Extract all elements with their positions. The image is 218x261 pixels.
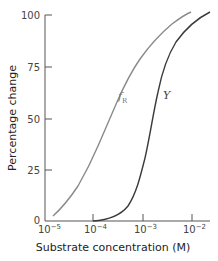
y-tick-label: 25 (27, 165, 40, 176)
y-tick-labels: 100 75 50 25 0 (21, 10, 40, 226)
x-tick-label: 10−2 (183, 223, 206, 235)
chart: 100 75 50 25 0 10−5 10−4 10−3 10−2 Subst… (0, 0, 218, 261)
x-ticks (93, 214, 192, 221)
x-tick-label: 10−5 (38, 223, 61, 235)
y-tick-label: 75 (27, 62, 40, 73)
series-Y-label: Y (163, 89, 172, 102)
series-fR-label: fR (117, 90, 128, 105)
x-tick-label: 10−3 (134, 223, 157, 235)
y-ticks (45, 15, 52, 170)
y-tick-label: 100 (21, 10, 40, 21)
x-tick-labels: 10−5 10−4 10−3 10−2 (38, 223, 206, 235)
y-axis-title: Percentage change (6, 65, 19, 171)
series-fR-line (53, 12, 191, 216)
y-tick-label: 50 (27, 114, 40, 125)
x-tick-label: 10−4 (84, 223, 108, 235)
x-axis-title: Substrate concentration (M) (36, 241, 191, 254)
